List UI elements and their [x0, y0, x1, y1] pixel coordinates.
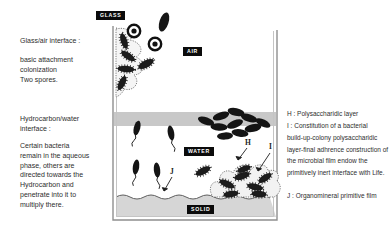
legend-i-definition: I : Constitution of a bacterial build-up…	[287, 120, 390, 179]
glass-air-interface-body: basic attachment colonization Two spores…	[20, 55, 112, 84]
marker-j-label: J	[170, 168, 174, 176]
legend-j-definition: J : Organomineral primitive film	[287, 190, 390, 202]
legend-h-definition: H : Polysaccharidic layer	[287, 108, 390, 120]
marker-i-label: I	[269, 143, 272, 151]
figure-canvas: Glass/air interface : basic attachment c…	[0, 0, 392, 234]
rod-bacterium-icon	[157, 11, 172, 33]
glass-zone-label: GLASS	[96, 11, 125, 20]
hydrocarbon-bacteria-cluster-icon	[197, 107, 272, 141]
ciliated-bacterium-icon	[194, 164, 211, 178]
marker-h-label: H	[245, 139, 251, 147]
solid-zone-label: SOLID	[187, 205, 214, 214]
biofilm-cluster-icon	[210, 164, 280, 198]
spore-icon	[128, 25, 140, 37]
glass-wall-colony-icon	[116, 28, 143, 97]
air-zone-label: AIR	[183, 47, 202, 56]
hydrocarbon-water-interface-body: Certain bacteria remain in the aqueous p…	[20, 141, 112, 210]
hydrocarbon-water-interface-heading: Hydrocarbon/water interface :	[20, 114, 112, 134]
spore-icon	[149, 38, 161, 50]
water-zone-label: WATER	[184, 147, 214, 156]
glass-air-interface-heading: Glass/air interface :	[20, 36, 112, 46]
flagellated-bacterium-icon	[129, 120, 177, 189]
